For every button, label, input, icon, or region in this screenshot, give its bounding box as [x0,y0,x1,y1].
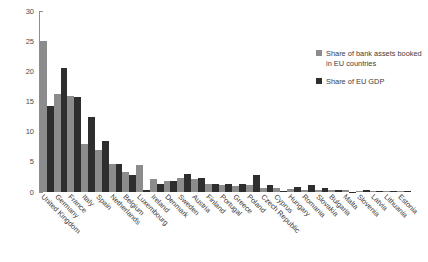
bar-gdp [47,106,54,192]
bar-group [260,11,274,192]
bar-gdp [143,190,150,192]
bar-gdp [212,184,219,192]
legend-swatch-icon [316,78,322,84]
bar-gdp [239,184,246,192]
bar-gdp [170,181,177,192]
bar-group [246,11,260,192]
bar-chart: 051015202530 United KingdomGermanyFrance… [0,0,428,262]
legend-item: Share of bank assets booked in EU countr… [316,49,428,68]
bar-gdp [184,174,191,192]
bar-assets [273,188,280,192]
y-axis-tick-label: 20 [26,68,34,76]
y-axis-tick-label: 25 [26,38,34,46]
bar-group [342,11,356,192]
bar-assets [232,186,239,192]
bar-assets [177,178,184,192]
bar-group [122,11,136,192]
bar-group [232,11,246,192]
bar-group [397,11,411,192]
bar-assets [109,164,116,192]
y-axis-tick-label: 15 [26,98,34,106]
bar-group [54,11,68,192]
bar-group [273,11,287,192]
legend-label: Share of EU GDP [326,77,384,87]
bar-assets [95,150,102,192]
bar-assets [191,179,198,192]
bar-gdp [116,164,123,192]
bar-assets [287,189,294,192]
bar-group [370,11,384,192]
bar-group [287,11,301,192]
bar-gdp [88,117,95,192]
bar-assets [40,41,47,192]
bar-group [301,11,315,192]
bar-gdp [198,178,205,192]
bar-group [95,11,109,192]
bar-group [150,11,164,192]
bar-group [109,11,123,192]
bar-group [81,11,95,192]
y-axis-tick-label: 30 [26,8,34,16]
bar-assets [136,165,143,192]
bar-gdp [308,185,315,192]
bar-series-container [40,11,411,192]
bar-assets [328,190,335,192]
bar-gdp [253,175,260,192]
bar-assets [122,172,129,192]
bar-gdp [267,185,274,192]
y-axis-tick-label: 0 [30,189,34,197]
bar-group [328,11,342,192]
bar-assets [81,144,88,192]
bar-gdp [322,188,329,192]
legend-swatch-icon [316,50,322,56]
legend-label: Share of bank assets booked in EU countr… [326,49,428,68]
bar-gdp [390,191,397,193]
bar-assets [164,181,171,192]
bar-assets [205,184,212,192]
chart-legend: Share of bank assets booked in EU countr… [316,49,428,96]
y-axis-tick-label: 5 [30,159,34,167]
x-axis-labels: United KingdomGermanyFranceItalySpainNet… [40,193,411,262]
bar-gdp [376,191,383,192]
bar-assets [67,96,74,192]
bar-group [205,11,219,192]
bar-gdp [74,97,81,192]
bar-gdp [404,191,411,192]
bar-group [383,11,397,192]
y-axis-tick-label: 10 [26,128,34,136]
bar-group [356,11,370,192]
bar-group [177,11,191,192]
bar-gdp [129,175,136,192]
bar-gdp [363,190,370,192]
legend-item: Share of EU GDP [316,77,428,87]
bar-gdp [280,191,287,192]
bar-assets [246,185,253,192]
bar-gdp [61,68,68,192]
bar-gdp [225,184,232,192]
bar-group [40,11,54,192]
bar-group [219,11,233,192]
bar-group [67,11,81,192]
bar-group [136,11,150,192]
bar-gdp [102,141,109,192]
bar-group [164,11,178,192]
bar-group [191,11,205,192]
bar-gdp [335,190,342,192]
bar-gdp [294,187,301,192]
bar-assets [54,94,61,192]
bar-group [315,11,329,192]
bar-gdp [157,184,164,192]
bar-assets [150,179,157,192]
